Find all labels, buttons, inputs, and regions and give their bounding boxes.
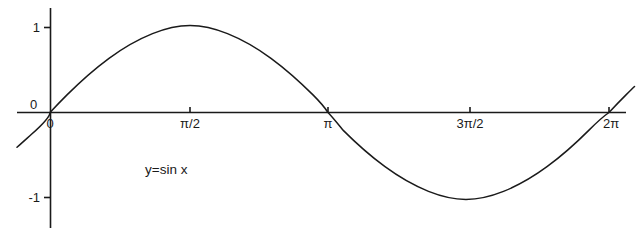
y-tick-label-negative-one: -1 <box>18 191 40 204</box>
x-tick-label-pi-over-2: π/2 <box>180 117 200 130</box>
plot-canvas <box>0 0 642 231</box>
curve-equation-label: y=sin x <box>145 163 187 177</box>
x-tick-label-2pi: 2π <box>603 117 619 130</box>
sine-graph-figure: 0 π/2 π 3π/2 2π 1 0 -1 y=sin x <box>0 0 642 231</box>
y-tick-label-positive-one: 1 <box>22 21 40 34</box>
x-tick-label-3pi-over-2: 3π/2 <box>456 117 483 130</box>
y-tick-label-zero: 0 <box>30 98 37 111</box>
x-tick-label-pi: π <box>324 117 333 130</box>
x-tick-label-0: 0 <box>46 117 53 130</box>
